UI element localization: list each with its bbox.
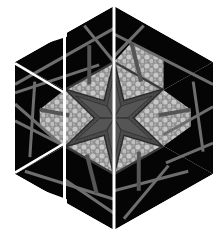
quilt-diagram [0,0,219,244]
